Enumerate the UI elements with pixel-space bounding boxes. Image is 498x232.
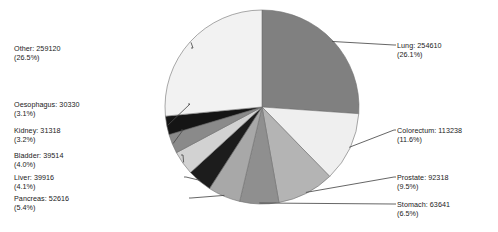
slice-label-stomach-percent: (6.5%) bbox=[397, 209, 450, 218]
slice-label-bladder: Bladder: 39514 (4.0%) bbox=[14, 151, 63, 169]
pie-slice-other[interactable] bbox=[165, 10, 262, 116]
pie-slice-lung[interactable] bbox=[262, 10, 359, 114]
slice-label-liver-value: Liver: 39916 bbox=[14, 173, 54, 182]
slice-label-liver: Liver: 39916 (4.1%) bbox=[14, 173, 54, 191]
slice-label-oesophagus-value: Oesophagus: 30330 bbox=[14, 100, 80, 109]
slice-label-kidney-value: Kidney: 31318 bbox=[14, 126, 61, 135]
slice-label-prostate-value: Prostate: 92318 bbox=[397, 173, 449, 182]
slice-label-pancreas: Pancreas: 52616 (5.4%) bbox=[14, 194, 69, 212]
slice-label-stomach: Stomach: 63641 (6.5%) bbox=[397, 200, 450, 218]
pie-chart-figure: Lung: 254610 (26.1%) Colorectum: 113238 … bbox=[0, 0, 498, 232]
slice-label-colorectum: Colorectum: 113238 (11.6%) bbox=[397, 126, 462, 144]
slice-label-pancreas-percent: (5.4%) bbox=[14, 203, 69, 212]
slice-label-colorectum-value: Colorectum: 113238 bbox=[397, 126, 462, 135]
slice-label-other-value: Other: 259120 bbox=[14, 44, 61, 53]
slice-label-kidney: Kidney: 31318 (3.2%) bbox=[14, 126, 61, 144]
slice-label-pancreas-value: Pancreas: 52616 bbox=[14, 194, 69, 203]
slice-label-lung: Lung: 254610 (26.1%) bbox=[397, 41, 442, 59]
leader-line-lung bbox=[332, 41, 396, 45]
slice-label-colorectum-percent: (11.6%) bbox=[397, 135, 462, 144]
leader-line-colorectum bbox=[349, 130, 396, 147]
slice-label-stomach-value: Stomach: 63641 bbox=[397, 200, 450, 209]
slice-label-oesophagus: Oesophagus: 30330 (3.1%) bbox=[14, 100, 80, 118]
slice-label-bladder-value: Bladder: 39514 bbox=[14, 151, 63, 160]
leader-line-stomach bbox=[259, 203, 396, 204]
slice-label-lung-value: Lung: 254610 bbox=[397, 41, 442, 50]
slice-label-prostate: Prostate: 92318 (9.5%) bbox=[397, 173, 449, 191]
pie-slices-group bbox=[165, 10, 359, 204]
slice-label-kidney-percent: (3.2%) bbox=[14, 135, 61, 144]
leader-line-pancreas bbox=[189, 195, 224, 198]
slice-label-prostate-percent: (9.5%) bbox=[397, 182, 449, 191]
slice-label-lung-percent: (26.1%) bbox=[397, 50, 442, 59]
slice-label-liver-percent: (4.1%) bbox=[14, 182, 54, 191]
slice-label-oesophagus-percent: (3.1%) bbox=[14, 109, 80, 118]
slice-label-bladder-percent: (4.0%) bbox=[14, 160, 63, 169]
slice-label-other: Other: 259120 (26.5%) bbox=[14, 44, 61, 62]
slice-label-other-percent: (26.5%) bbox=[14, 53, 61, 62]
